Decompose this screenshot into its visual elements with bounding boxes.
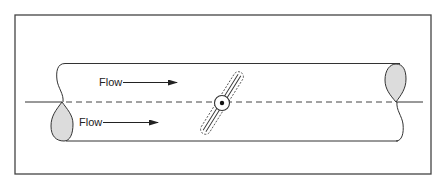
flow-label-upper: Flow: [99, 76, 122, 88]
flow-label-lower: Flow: [79, 116, 102, 128]
butterfly-valve-diagram: Flow Flow: [0, 0, 445, 188]
valve-shaft-dot: [220, 101, 224, 105]
diagram-frame: [15, 15, 431, 174]
